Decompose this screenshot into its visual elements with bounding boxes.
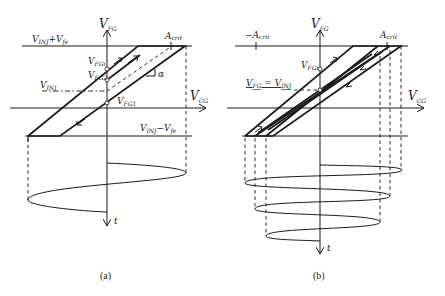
vfg1-label-a: VFG1 (117, 96, 136, 107)
vfgi-label-b: VFGi (301, 60, 318, 71)
point-vfg1-a (105, 101, 109, 105)
acrit-label-b: Acrit (379, 30, 398, 40)
caption-b: (b) (313, 270, 325, 282)
up-arrow-2-a (128, 56, 138, 63)
vfg-axis-label-a: VFG (99, 17, 117, 32)
top-level-label-a: VINJ+Vfe (32, 34, 69, 46)
vfgi-label-a: VFGi (88, 56, 105, 67)
acrit-label-a: Acrit (164, 31, 183, 41)
t-axis-label-a: t (114, 216, 118, 226)
inner-loop-line-4-b (268, 51, 383, 130)
t-axis-label-b: t (327, 243, 331, 253)
hysteresis-diagram: VFG VCG VINJ+Vfe VINJ−Vfe VINJ α Acrit V… (0, 0, 445, 296)
vfg2-label-a: VFG2 (88, 70, 107, 81)
neg-acrit-label-b: −Acrit (245, 30, 270, 40)
panel-b: VFG VCG −Acrit Acrit VFGi VFG = VINJ (227, 17, 426, 282)
vfg-equals-vinj-label-b: VFG = VINJ (246, 78, 292, 90)
point-vinj-b (318, 88, 322, 92)
vcg-axis-label-b: VCG (408, 89, 426, 104)
vinj-label-a: VINJ (40, 80, 57, 92)
alpha-label-a: α (158, 69, 164, 79)
vcg-axis-label-a: VCG (190, 89, 208, 104)
bottom-level-label-a: VINJ−Vfe (140, 123, 177, 135)
point-vfgi-a (105, 67, 109, 71)
caption-a: (a) (100, 270, 111, 282)
vfg-axis-label-b: VFG (311, 17, 329, 32)
panel-a: VFG VCG VINJ+Vfe VINJ−Vfe VINJ α Acrit V… (10, 17, 208, 282)
point-vfgi-b (318, 67, 322, 71)
input-waveform-b (245, 165, 402, 241)
